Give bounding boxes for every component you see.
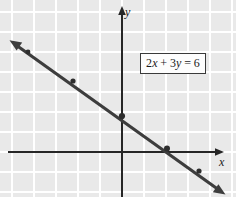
point-x-intercept (164, 146, 170, 152)
x-axis-label: x (219, 156, 224, 168)
equation-label-box: 2x + 3y = 6 (140, 53, 206, 74)
equation-label-text: 2x + 3y = 6 (146, 56, 200, 71)
point-far-upper-left (26, 50, 31, 55)
point-upper-left (70, 78, 75, 83)
point-y-intercept (119, 113, 125, 119)
y-axis-label: y (125, 6, 130, 18)
equation-operator: + (160, 56, 167, 70)
plotted-line (0, 0, 236, 210)
graph-figure: y x 2x + 3y = 6 (0, 0, 236, 210)
equation-var-y: y (176, 56, 182, 70)
equation-equals: = (184, 56, 191, 70)
point-lower-right (196, 168, 201, 173)
equation-constant: 6 (194, 56, 200, 70)
equation-var-x: x (152, 56, 158, 70)
